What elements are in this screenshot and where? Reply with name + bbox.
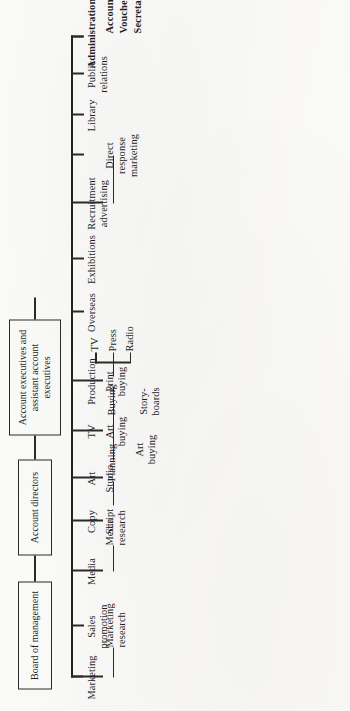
node-overseas[interactable]: Overseas	[86, 293, 98, 332]
connector-marketing-to-research	[113, 647, 115, 677]
node-accounts[interactable]: Accounts	[104, 0, 116, 33]
stub-copy	[71, 519, 84, 521]
connector-buying-to-press	[113, 352, 115, 363]
box-account-directors-label: Account directors	[29, 471, 41, 542]
main-spine	[71, 35, 73, 677]
connector-buying-to-tv	[95, 352, 97, 363]
stub-public-relations	[71, 72, 84, 74]
connector-directors-to-executives	[34, 435, 36, 459]
node-buying-radio[interactable]: Radio	[124, 326, 136, 351]
connector-buying-to-radio	[130, 352, 132, 363]
stub-overseas	[71, 310, 84, 312]
stub-direct-response	[71, 153, 84, 155]
organization-chart: Board of management Account directors Ac…	[0, 0, 350, 711]
connector-media-to-sub	[84, 569, 103, 571]
connector-tv-to-storyboards	[84, 429, 103, 431]
connector-recruitment-to-sub	[84, 201, 103, 203]
connector-production-to-print-buying	[84, 379, 103, 381]
rotated-chart-stage: Board of management Account directors Ac…	[0, 0, 350, 711]
box-board-of-management[interactable]: Board of management	[18, 581, 52, 689]
node-administration[interactable]: Administration	[86, 0, 98, 68]
connector-media-to-media-research	[113, 545, 115, 571]
node-print-buying[interactable]: Print buying	[104, 366, 128, 395]
stub-library	[71, 113, 84, 115]
stub-sales-promotion	[71, 624, 84, 626]
connector-executives-to-spine	[34, 297, 36, 319]
stub-exhibitions	[71, 257, 84, 259]
stub-art	[71, 476, 84, 478]
node-exhibitions[interactable]: Exhibitions	[86, 234, 98, 283]
node-filming[interactable]: Story- boards	[138, 387, 162, 415]
box-account-executives[interactable]: Account executives and assistant account…	[9, 319, 61, 435]
connector-art-to-studio	[84, 476, 103, 478]
node-script[interactable]: Script	[104, 508, 116, 533]
connector-copy-to-script	[84, 519, 103, 521]
node-vouchers[interactable]: Vouchers	[118, 0, 130, 33]
node-direct-response-marketing[interactable]: Direct response marketing	[104, 133, 140, 176]
stub-marketing	[71, 675, 84, 677]
node-library[interactable]: Library	[86, 99, 98, 131]
stub-production	[71, 379, 84, 381]
stub-tv	[71, 429, 84, 431]
node-storyboards[interactable]: Art buying	[104, 416, 128, 445]
node-buying-tv[interactable]: TV	[89, 337, 101, 351]
box-account-directors[interactable]: Account directors	[18, 459, 52, 555]
box-board-of-management-label: Board of management	[29, 591, 41, 680]
stub-media	[71, 569, 84, 571]
node-buying-press[interactable]: Press	[107, 329, 119, 351]
box-account-executives-label: Account executives and assistant account…	[17, 323, 52, 431]
node-studio[interactable]: Studio	[104, 464, 116, 492]
stub-recruitment	[71, 201, 84, 203]
connector-board-to-directors	[34, 555, 36, 581]
connector-marketing-to-sub	[84, 675, 103, 677]
node-art-buying[interactable]: Art buying	[134, 434, 158, 463]
stub-administration	[71, 35, 84, 37]
node-secretarial[interactable]: Secretarial	[132, 0, 144, 33]
node-marketing-research[interactable]: Marketing research	[104, 603, 128, 647]
